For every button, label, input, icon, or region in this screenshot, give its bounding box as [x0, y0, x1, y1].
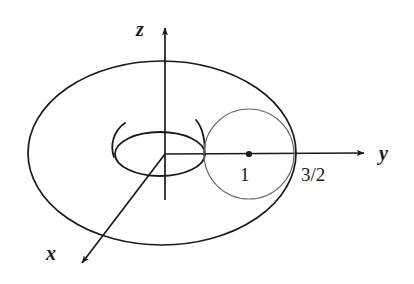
cross-section-center-dot: [246, 151, 252, 157]
torus-diagram-canvas: [0, 0, 414, 284]
tube-center-radius-label: 1: [240, 164, 250, 186]
outer-radius-label: 3/2: [301, 164, 325, 186]
x-axis-line: [82, 154, 165, 263]
y-axis-line: [165, 153, 364, 154]
torus-diagram: z y x 1 3/2: [0, 0, 414, 284]
y-axis-label: y: [379, 142, 388, 165]
x-axis-label: x: [46, 242, 56, 265]
hole-rim-arc-left: [112, 123, 125, 157]
z-axis-label: z: [136, 18, 144, 41]
